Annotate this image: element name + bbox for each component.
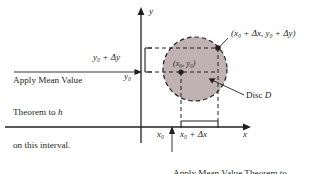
- corner-label-leader: [220, 38, 229, 47]
- center-point-label: (x₀, y₀): [173, 59, 196, 69]
- y-axis-label: y: [149, 6, 153, 17]
- center-point-dot: [178, 69, 183, 74]
- bottom-annotation: Apply Mean Value Theorem to g on this in…: [173, 146, 287, 174]
- bottom-annotation-line-1: Apply Mean Value Theorem to: [173, 168, 287, 174]
- left-annotation: Apply Mean Value Theorem to h on this in…: [13, 53, 82, 172]
- y0-plus-delta-y-label: y₀ + Δy: [93, 52, 120, 63]
- y0-label: y₀: [124, 71, 131, 82]
- left-annotation-line-3: on this interval.: [13, 140, 82, 151]
- x0-label: x₀: [157, 129, 164, 140]
- disc-d-label: Disc D: [246, 90, 271, 101]
- mean-value-theorem-figure: Apply Mean Value Theorem to h on this in…: [0, 0, 332, 174]
- left-annotation-line-1: Apply Mean Value: [13, 75, 82, 86]
- corner-point-label: (x₀ + Δx, y₀ + Δy): [231, 28, 295, 39]
- x0-plus-delta-x-label: x₀ + Δx: [180, 129, 207, 140]
- y-axis-arrowhead: [138, 7, 145, 15]
- left-annotation-line-2: Theorem to h: [13, 107, 82, 118]
- x-axis-label: x: [243, 129, 247, 140]
